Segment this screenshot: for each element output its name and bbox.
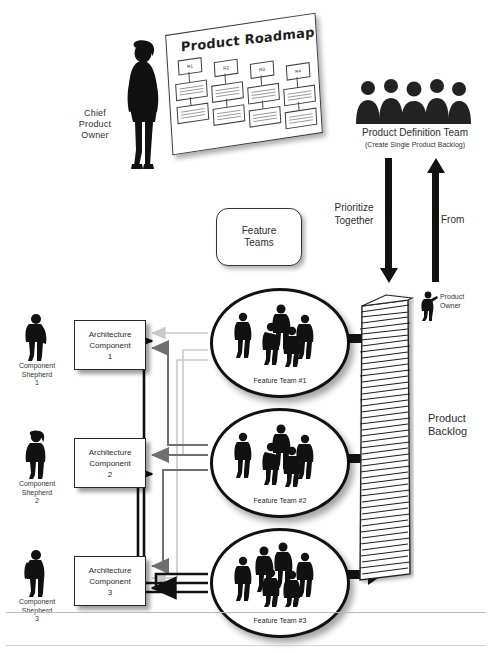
architecture-component-3[interactable]: Architecture Component 3 xyxy=(74,556,146,606)
product-owner-line2: Owner xyxy=(440,301,488,310)
component-shepherd-1-label: Component Shepherd 1 xyxy=(10,362,64,388)
product-owner-label: Product Owner xyxy=(440,292,488,310)
shep1-line3: 1 xyxy=(10,379,64,388)
feature-team-2-label: Feature Team #2 xyxy=(213,497,347,504)
feature-team-1-people-icon xyxy=(213,301,347,367)
feature-team-3-people-icon xyxy=(213,541,347,607)
shep2-line2: Shepherd xyxy=(10,489,64,498)
architecture-component-1[interactable]: Architecture Component 1 xyxy=(74,320,146,370)
shep3-line3: 3 xyxy=(10,615,64,624)
feature-team-2-oval[interactable]: Feature Team #2 xyxy=(210,408,350,518)
component-shepherd-1-figure-icon xyxy=(10,312,64,362)
architecture-component-3-label: Architecture Component 3 xyxy=(89,565,132,598)
product-owner-figure-icon xyxy=(418,290,438,322)
feature-team-3-oval[interactable]: Feature Team #3 xyxy=(210,528,350,638)
component-shepherd-2: Component Shepherd 2 xyxy=(10,430,64,506)
product-backlog-label: Product Backlog xyxy=(428,412,484,437)
shep3-line1: Component xyxy=(10,598,64,607)
architecture-component-2-label: Architecture Component 2 xyxy=(89,447,132,480)
arch2-line1: Architecture xyxy=(89,447,132,458)
arch3-line3: 3 xyxy=(89,587,132,598)
arch2-line2: Component xyxy=(89,458,132,469)
arch1-line2: Component xyxy=(89,340,132,351)
diagram-canvas: Chief Product Owner Product Roadmap R1 R… xyxy=(0,0,492,653)
backlog-line2: Backlog xyxy=(428,425,484,438)
arch2-line3: 2 xyxy=(89,469,132,480)
shep2-line3: 2 xyxy=(10,497,64,506)
feature-team-1-label: Feature Team #1 xyxy=(213,377,347,384)
footer-divider xyxy=(6,612,486,613)
feature-team-3-label: Feature Team #3 xyxy=(213,617,347,624)
shep2-line1: Component xyxy=(10,480,64,489)
backlog-line1: Product xyxy=(428,412,484,425)
arch3-line2: Component xyxy=(89,576,132,587)
arch1-line1: Architecture xyxy=(89,329,132,340)
component-shepherd-1: Component Shepherd 1 xyxy=(10,312,64,388)
footer-divider-secondary xyxy=(6,645,486,646)
component-shepherd-3-figure-icon xyxy=(10,548,64,598)
component-shepherd-2-label: Component Shepherd 2 xyxy=(10,480,64,506)
product-owner-line1: Product xyxy=(440,292,488,301)
feature-team-2-people-icon xyxy=(213,421,347,487)
feature-team-1-oval[interactable]: Feature Team #1 xyxy=(210,288,350,398)
shep3-line2: Shepherd xyxy=(10,607,64,616)
component-shepherd-3-label: Component Shepherd 3 xyxy=(10,598,64,624)
shep1-line1: Component xyxy=(10,362,64,371)
arch1-line3: 1 xyxy=(89,351,132,362)
shep1-line2: Shepherd xyxy=(10,371,64,380)
product-backlog-stack[interactable] xyxy=(356,292,414,584)
component-shepherd-2-figure-icon xyxy=(10,430,64,480)
architecture-component-2[interactable]: Architecture Component 2 xyxy=(74,438,146,488)
arch3-line1: Architecture xyxy=(89,565,132,576)
architecture-component-1-label: Architecture Component 1 xyxy=(89,329,132,362)
